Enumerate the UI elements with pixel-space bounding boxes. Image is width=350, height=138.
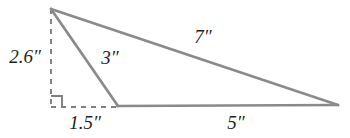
right-angle-square-icon (51, 96, 62, 107)
dimension-label-slant: 3″ (101, 48, 118, 67)
triangle-base-side (117, 105, 338, 106)
geometry-figure: 2.6″ 3″ 7″ 1.5″ 5″ (0, 0, 350, 138)
dimension-label-base-right: 5″ (227, 113, 244, 132)
dimension-label-hypotenuse: 7″ (194, 27, 211, 46)
triangle-hypotenuse-side (51, 9, 338, 105)
dimension-label-height: 2.6″ (9, 47, 41, 66)
dimension-label-base-left: 1.5″ (69, 113, 101, 132)
triangle-diagram-svg (0, 0, 350, 138)
